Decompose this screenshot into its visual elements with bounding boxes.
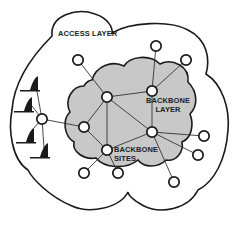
access-node [169,177,179,187]
backbone-sites-label: BACKBONE SITES [114,145,158,163]
access-node [151,41,161,51]
access-node [199,131,209,141]
backbone-node [147,86,157,96]
backbone-site-node [102,145,112,155]
access-node [113,168,123,178]
backbone-node [102,92,112,102]
access-node [73,55,83,65]
backbone-node [147,127,157,137]
backbone-layer-label-line2: LAYER [146,105,190,114]
access-node [79,168,89,178]
access-layer-label: ACCESS LAYER [58,29,117,38]
access-node [193,150,203,160]
diagram-canvas [0,0,240,227]
backbone-node [79,122,89,132]
access-node [181,55,191,65]
access-hub-node [37,114,47,124]
backbone-layer-label-line1: BACKBONE [146,96,190,105]
network-diagram: ACCESS LAYER BACKBONE LAYER BACKBONE SIT… [0,0,240,227]
backbone-layer-label: BACKBONE LAYER [146,96,190,114]
backbone-sites-label-line2: SITES [114,154,158,163]
backbone-sites-label-line1: BACKBONE [114,145,158,154]
